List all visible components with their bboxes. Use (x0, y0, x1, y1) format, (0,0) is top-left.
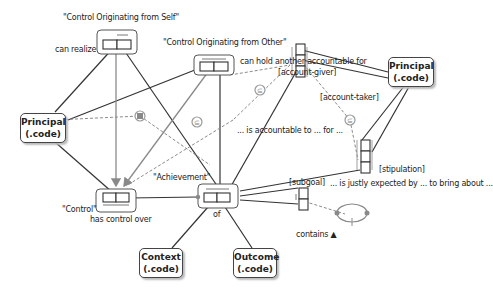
fact-reading-can-realize: can realize (55, 45, 96, 54)
fact-title-achievement: "Achievement" (153, 173, 210, 182)
fact-title-control: "Control" (62, 205, 96, 214)
fact-reading-accountable: ... is accountable to ... for ... (237, 126, 343, 135)
entity-name: Principal (389, 60, 433, 72)
entity-refmode: (.code) (140, 263, 182, 275)
subset-constraint-icon: ⊆ (192, 117, 202, 127)
role-stipulation: [stipulation] (379, 165, 425, 174)
fact-control (96, 189, 136, 212)
entity-name: Outcome (234, 251, 276, 263)
entity-principal-right[interactable]: Principal (.code) (388, 57, 434, 87)
entity-name: Context (140, 251, 182, 263)
fact-control-other (194, 55, 234, 75)
fact-reading-of: of (213, 210, 220, 219)
entity-refmode: (.code) (389, 72, 433, 84)
subset-constraint-icon: ⊆ (255, 85, 265, 95)
fact-title-control-self: "Control Originating from Self" (63, 13, 179, 22)
svg-text:⊆: ⊆ (194, 119, 200, 127)
fact-achievement (196, 184, 238, 208)
role-account-giver: [account-giver] (278, 68, 336, 77)
exclusion-constraint-icon (135, 111, 145, 121)
fact-reading-expected: ... is justly expected by ... to bring a… (330, 179, 493, 188)
fact-reading-contains: contains ▲ (296, 230, 337, 239)
svg-text:⊆: ⊆ (347, 117, 353, 125)
fact-expected (357, 140, 372, 173)
ring-constraint-icon (335, 204, 370, 226)
entity-name: Principal (21, 116, 65, 128)
entity-refmode: (.code) (21, 128, 65, 140)
entity-principal-left[interactable]: Principal (.code) (20, 113, 66, 143)
entity-context[interactable]: Context (.code) (139, 248, 183, 278)
role-subgoal: [subgoal] (289, 178, 325, 187)
fact-reading-has-control-over: has control over (90, 215, 152, 224)
entity-outcome[interactable]: Outcome (.code) (233, 248, 277, 278)
svg-text:⊆: ⊆ (257, 87, 263, 95)
fact-title-control-other: "Control Originating from Other" (163, 38, 286, 47)
entity-refmode: (.code) (234, 263, 276, 275)
subset-constraint-icon: ⊆ (345, 115, 355, 125)
fact-contains (296, 188, 308, 210)
role-account-taker: [account-taker] (320, 93, 379, 102)
fact-reading-hold-accountable: can hold another accountable for (240, 57, 367, 66)
fact-control-self (97, 30, 137, 54)
